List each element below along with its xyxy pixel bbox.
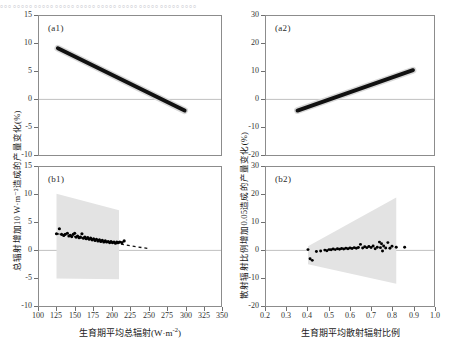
panel-b1 — [38, 166, 222, 307]
trend-line-a2 — [298, 70, 413, 110]
ytlabel-a1-5: -10 — [6, 150, 32, 159]
right-x-axis-title: 生育期平均散射辐射比例 — [265, 326, 435, 339]
xtlabel-left-10: 350 — [212, 311, 232, 320]
ytlabel-b1-3: 0 — [10, 245, 32, 254]
ytlabel-b1-2: 5 — [10, 217, 32, 226]
ytick-b1-0 — [34, 166, 38, 167]
xtlabel-right-0: 0.2 — [255, 311, 275, 320]
ytlabel-a2-1: 20 — [237, 38, 259, 47]
panel-b1-plot — [39, 167, 221, 306]
xtlabel-right-2: 0.4 — [297, 311, 317, 320]
xtlabel-left-1: 125 — [46, 311, 66, 320]
xtlabel-left-5: 225 — [120, 311, 140, 320]
xtlabel-right-6: 0.8 — [382, 311, 402, 320]
ytick-a1-2 — [34, 71, 38, 72]
ytick-b2-4 — [261, 278, 265, 279]
figure-container: 总辐射增加10 W·m⁻²造成的产量变化(%) 散射辐射比例增加0.05造成的产… — [0, 9, 451, 357]
ytick-a1-3 — [34, 99, 38, 100]
ytlabel-b1-0: 15 — [10, 161, 32, 170]
xtlabel-right-4: 0.6 — [340, 311, 360, 320]
xtlabel-left-6: 250 — [139, 311, 159, 320]
confidence-band-b2 — [308, 198, 396, 284]
cropped-caption-sliver: 。。。。。。。。。。。。。。。。。。。。。。。。。。。。。。。。。。。。。。。。… — [0, 0, 451, 9]
panel-label-b2: (b2) — [275, 174, 291, 184]
ytick-b1-4 — [34, 278, 38, 279]
panel-label-a1: (a1) — [48, 23, 64, 33]
ytick-a1-0 — [34, 15, 38, 16]
xtlabel-right-7: 0.9 — [404, 311, 424, 320]
ytlabel-a1-4: -5 — [8, 122, 32, 131]
ytick-a2-2 — [261, 71, 265, 72]
panel-a2 — [265, 15, 435, 156]
ytick-a2-1 — [261, 43, 265, 44]
ytick-b2-1 — [261, 194, 265, 195]
ytick-a1-4 — [34, 127, 38, 128]
ytlabel-b1-1: 10 — [10, 189, 32, 198]
ytick-a1-5 — [34, 155, 38, 156]
ytlabel-b2-0: 30 — [237, 161, 259, 170]
panel-a1-plot — [39, 16, 221, 155]
panel-b2-plot — [266, 167, 434, 306]
ytlabel-a2-0: 30 — [237, 10, 259, 19]
ytick-a2-3 — [261, 99, 265, 100]
ytick-a1-1 — [34, 43, 38, 44]
ytlabel-a2-2: 10 — [237, 66, 259, 75]
panel-label-b1: (b1) — [48, 174, 64, 184]
ytlabel-b1-4: -5 — [8, 273, 32, 282]
xtlabel-right-8: 1.0 — [425, 311, 445, 320]
xtlabel-right-3: 0.5 — [319, 311, 339, 320]
xtlabel-left-8: 300 — [176, 311, 196, 320]
ytlabel-b2-2: 10 — [237, 217, 259, 226]
ytick-b2-2 — [261, 222, 265, 223]
left-x-axis-title-tail: ) — [178, 328, 181, 338]
xtlabel-left-3: 175 — [83, 311, 103, 320]
ytick-b1-1 — [34, 194, 38, 195]
ytick-a2-5 — [261, 155, 265, 156]
ytlabel-b2-3: 0 — [237, 245, 259, 254]
ytlabel-b2-4: -10 — [235, 273, 259, 282]
ytlabel-b1-5: -10 — [6, 301, 32, 310]
ytick-a2-4 — [261, 127, 265, 128]
xtlabel-left-9: 325 — [194, 311, 214, 320]
panel-a2-plot — [266, 16, 434, 155]
panel-label-a2: (a2) — [275, 23, 291, 33]
ytick-b1-2 — [34, 222, 38, 223]
panel-a1 — [38, 15, 222, 156]
xtlabel-left-7: 275 — [157, 311, 177, 320]
ytlabel-b2-1: 20 — [237, 189, 259, 198]
panel-b2 — [265, 166, 435, 307]
ytlabel-a1-3: 0 — [10, 94, 32, 103]
ytick-b2-0 — [261, 166, 265, 167]
xtlabel-left-0: 100 — [28, 311, 48, 320]
ytick-a2-0 — [261, 15, 265, 16]
xtlabel-right-1: 0.3 — [276, 311, 296, 320]
left-x-axis-title-main: 生育期平均总辐射(W·m — [79, 328, 173, 338]
ytlabel-a2-5: -20 — [235, 150, 259, 159]
ytick-b2-3 — [261, 250, 265, 251]
ytick-b1-3 — [34, 250, 38, 251]
ytlabel-b2-5: -20 — [235, 301, 259, 310]
xtlabel-right-5: 0.7 — [361, 311, 381, 320]
ytlabel-a2-4: -10 — [235, 122, 259, 131]
left-x-axis-title: 生育期平均总辐射(W·m-2) — [38, 326, 222, 339]
xtlabel-left-2: 150 — [65, 311, 85, 320]
ytlabel-a1-2: 5 — [10, 66, 32, 75]
xtlabel-left-4: 200 — [102, 311, 122, 320]
ytlabel-a1-0: 15 — [10, 10, 32, 19]
trend-line-a1 — [58, 48, 185, 110]
ytlabel-a1-1: 10 — [10, 38, 32, 47]
ytlabel-a2-3: 0 — [237, 94, 259, 103]
